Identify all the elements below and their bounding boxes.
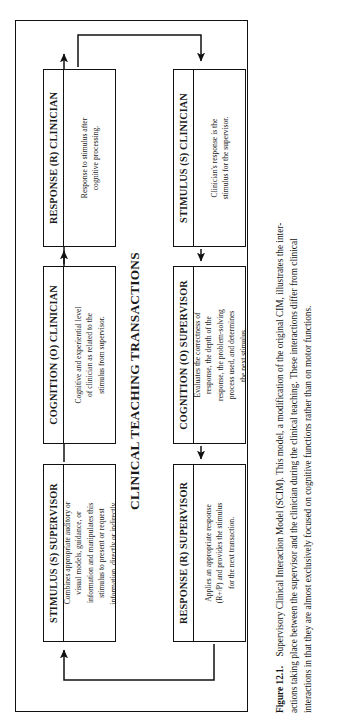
node-body-text: Cognitive and experiential levelof clini… bbox=[72, 306, 106, 403]
node-response-supervisor: RESPONSE (R) SUPERVISOR Applies an appro… bbox=[173, 464, 246, 642]
node-body: Applies an appropriate response(R+/P) an… bbox=[194, 465, 245, 641]
node-cognition-clinician: COGNITION (O) CLINICIAN Cognitive and ex… bbox=[43, 266, 116, 444]
node-stimulus-clinician: STIMULUS (S) CLINICIAN Clinician's respo… bbox=[173, 69, 246, 247]
node-body: Cognitive and experiential levelof clini… bbox=[64, 267, 115, 443]
node-header: STIMULUS (S) SUPERVISOR bbox=[44, 465, 64, 641]
node-header: RESPONSE (R) CLINICIAN bbox=[44, 70, 64, 246]
node-body-text: Evaluates the correctness ofresponse, th… bbox=[194, 309, 245, 401]
node-header-label: COGNITION (O) CLINICIAN bbox=[48, 285, 58, 425]
node-stimulus-supervisor: STIMULUS (S) SUPERVISOR Combines appropr… bbox=[43, 464, 116, 642]
node-header-label: RESPONSE (R) CLINICIAN bbox=[48, 92, 58, 224]
node-body-text: Combines appropriate auditory orvisual m… bbox=[64, 501, 115, 604]
node-body-text: Response to stimulus aftercognitive proc… bbox=[78, 118, 101, 198]
caption-line-3: interactions in that they are almost exc… bbox=[301, 13, 315, 713]
node-body-text: Applies an appropriate response(R+/P) an… bbox=[202, 503, 236, 603]
node-body: Response to stimulus aftercognitive proc… bbox=[64, 70, 115, 246]
node-response-clinician: RESPONSE (R) CLINICIAN Response to stimu… bbox=[43, 69, 116, 247]
node-header: STIMULUS (S) CLINICIAN bbox=[174, 70, 194, 246]
node-header: COGNITION (O) SUPERVISOR bbox=[174, 267, 194, 443]
figure-page: RESPONSE (R) CLINICIAN Response to stimu… bbox=[0, 0, 347, 725]
arrow-response-supervisor-to-stimulus-supervisor bbox=[64, 644, 214, 680]
node-cognition-supervisor: COGNITION (O) SUPERVISOR Evaluates the c… bbox=[173, 266, 246, 444]
diagram-title-label: CLINICAL TEACHING TRANSACTIONS bbox=[127, 252, 143, 510]
arrow-response-clinician-to-stimulus-clinician bbox=[78, 35, 201, 67]
caption-line-2: actions taking place between the supervi… bbox=[287, 13, 301, 713]
caption-line-1-text: Supervisory Clinical Interaction Model (… bbox=[275, 222, 285, 665]
node-body: Combines appropriate auditory orvisual m… bbox=[64, 465, 115, 641]
node-header-label: COGNITION (O) SUPERVISOR bbox=[178, 280, 188, 430]
diagram-title: CLINICAL TEACHING TRANSACTIONS bbox=[120, 271, 150, 491]
figure-frame: RESPONSE (R) CLINICIAN Response to stimu… bbox=[15, 20, 248, 712]
node-body-text: Clinician's response is thestimulus for … bbox=[208, 117, 231, 200]
node-header: COGNITION (O) CLINICIAN bbox=[44, 267, 64, 443]
node-body: Evaluates the correctness ofresponse, th… bbox=[194, 267, 245, 443]
node-body: Clinician's response is thestimulus for … bbox=[194, 70, 245, 246]
caption-label: Figure 12.1. bbox=[275, 665, 285, 712]
node-header-label: STIMULUS (S) CLINICIAN bbox=[178, 93, 188, 223]
node-header-label: RESPONSE (R) SUPERVISOR bbox=[178, 482, 188, 624]
node-header-label: STIMULUS (S) SUPERVISOR bbox=[48, 483, 58, 623]
caption-line-1: Figure 12.1. Supervisory Clinical Intera… bbox=[273, 13, 287, 713]
node-header: RESPONSE (R) SUPERVISOR bbox=[174, 465, 194, 641]
figure-caption: Figure 12.1. Supervisory Clinical Intera… bbox=[255, 0, 347, 725]
